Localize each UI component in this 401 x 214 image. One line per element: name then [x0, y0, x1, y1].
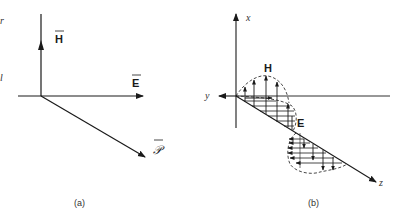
- figure-canvas: r l H E 𝒫 (a) x y z: [0, 0, 401, 214]
- poynting-vector-label: 𝒫: [153, 140, 165, 157]
- e-wave-label: E: [297, 117, 304, 129]
- edge-mark-top: r: [0, 15, 4, 26]
- z-axis: [236, 96, 376, 182]
- h-wave-envelope: [236, 76, 289, 103]
- caption-b: (b): [308, 198, 319, 208]
- svg-text:𝒫: 𝒫: [153, 143, 165, 157]
- panel-b: x y z: [204, 12, 390, 208]
- svg-text:H: H: [55, 33, 63, 45]
- h-vector-arrowhead: [38, 40, 44, 50]
- edge-mark-mid: l: [0, 72, 3, 83]
- e-wave-lower: [288, 133, 342, 168]
- h-wave-label: H: [264, 62, 272, 74]
- h-wave: [236, 76, 292, 130]
- panel-a: H E 𝒫 (a): [18, 14, 165, 208]
- e-vector-label: E: [132, 75, 141, 89]
- svg-text:E: E: [132, 77, 139, 89]
- poynting-vector-arrow: [41, 96, 145, 157]
- caption-a: (a): [74, 198, 85, 208]
- x-axis-label: x: [245, 12, 251, 23]
- z-axis-label: z: [378, 177, 383, 188]
- h-vector-label: H: [55, 31, 64, 45]
- edge-marks: r l: [0, 15, 4, 83]
- y-axis-label: y: [204, 90, 210, 101]
